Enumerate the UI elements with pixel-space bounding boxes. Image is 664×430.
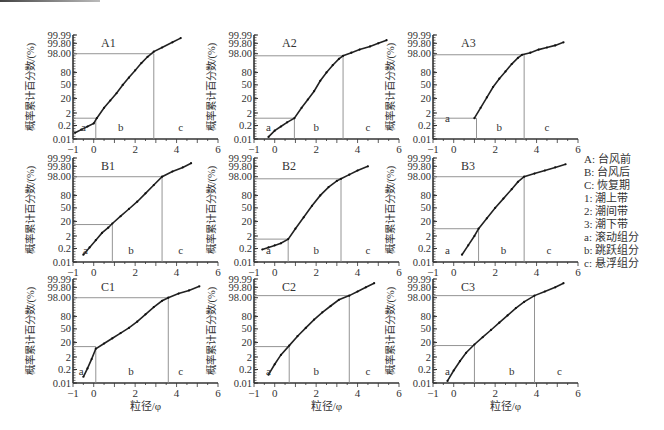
chart-panel-c1: 0.010.2220508098.0099.8099.99−10246概率累计百… <box>24 274 221 413</box>
data-point <box>340 178 342 180</box>
chart-panel-a1: 0.010.2220508098.0099.8099.99−10246概率累计百… <box>24 30 221 156</box>
x-tick-label: 6 <box>575 266 581 278</box>
y-tick-label: 98.00 <box>228 292 252 303</box>
y-axis-label: 概率累计百分数/(%) <box>384 165 397 254</box>
data-point <box>356 169 358 171</box>
y-axis-label: 概率累计百分数/(%) <box>24 165 37 254</box>
segment-label-c: c <box>557 365 562 377</box>
y-tick-label: 2 <box>247 352 252 363</box>
x-axis-label: 粒径/φ <box>311 399 342 412</box>
data-point <box>311 205 313 207</box>
x-tick-label: 2 <box>132 266 138 278</box>
y-tick-label: 80 <box>242 190 253 201</box>
x-axis-label: 粒径/φ <box>130 399 161 412</box>
panel-title: B2 <box>282 159 296 173</box>
x-tick-label: 2 <box>492 266 498 278</box>
y-tick-label: 2 <box>66 352 71 363</box>
data-point <box>153 51 155 53</box>
data-point <box>190 162 192 164</box>
segment-label-b: b <box>128 244 134 256</box>
y-tick-label: 99.99 <box>228 153 252 164</box>
chart-panel-c3: 0.010.2220508098.0099.8099.99−10246概率累计百… <box>384 274 581 413</box>
x-tick-label: 2 <box>313 143 319 155</box>
data-point <box>286 121 288 123</box>
chart-panel-b3: 0.010.2220508098.0099.8099.99−10246概率累计百… <box>384 153 581 279</box>
data-point <box>296 335 298 337</box>
y-tick-label: 2 <box>66 231 71 242</box>
data-point <box>517 181 519 183</box>
data-point <box>338 58 340 60</box>
y-tick-label: 50 <box>61 79 72 90</box>
x-tick-label: 6 <box>215 266 221 278</box>
data-point <box>88 246 90 248</box>
y-tick-label: 99.99 <box>407 274 431 285</box>
data-point <box>473 117 475 119</box>
data-point <box>486 96 488 98</box>
data-point <box>120 332 122 334</box>
data-point <box>533 173 535 175</box>
y-tick-label: 80 <box>421 311 432 322</box>
data-point <box>321 311 323 313</box>
y-axis-label: 概率累计百分数/(%) <box>384 286 397 375</box>
y-tick-label: 99.99 <box>407 153 431 164</box>
panel-title: C2 <box>282 280 296 294</box>
segment-label-c: c <box>547 244 552 256</box>
y-tick-label: 2 <box>247 108 252 119</box>
x-tick-label: 2 <box>492 143 498 155</box>
y-tick-label: 80 <box>242 67 253 78</box>
data-point <box>459 360 461 362</box>
data-point <box>336 180 338 182</box>
y-tick-label: 98.00 <box>407 292 431 303</box>
segment-label-a: a <box>83 244 88 256</box>
data-point <box>365 286 367 288</box>
chart-panel-a2: 0.010.2220508098.0099.8099.99−10246概率累计百… <box>205 30 402 156</box>
data-point <box>385 39 387 41</box>
data-point <box>198 285 200 287</box>
y-tick-label: 50 <box>421 202 432 213</box>
segment-label-c: c <box>178 365 183 377</box>
segment-label-b: b <box>313 244 319 256</box>
y-tick-label: 80 <box>61 67 72 78</box>
data-point <box>473 343 475 345</box>
y-tick-label: 98.00 <box>407 171 431 182</box>
data-point <box>521 54 523 56</box>
data-point <box>523 301 525 303</box>
data-point <box>338 299 340 301</box>
data-point <box>486 217 488 219</box>
data-point <box>562 282 564 284</box>
y-tick-label: 2 <box>426 352 431 363</box>
data-point <box>350 52 352 54</box>
data-point <box>359 48 361 50</box>
x-tick-label: 4 <box>534 387 540 399</box>
segment-label-a: a <box>79 365 84 377</box>
data-point <box>122 84 124 86</box>
data-point <box>96 117 98 119</box>
x-tick-label: 6 <box>396 387 402 399</box>
data-point <box>498 78 500 80</box>
x-tick-label: −1 <box>67 387 79 399</box>
y-tick-label: 20 <box>421 337 432 348</box>
data-point <box>261 248 263 250</box>
cumulative-curve <box>474 42 563 118</box>
data-point <box>504 70 506 72</box>
segment-label-b: b <box>509 365 515 377</box>
x-tick-label: −1 <box>248 387 260 399</box>
segment-label-a: a <box>445 112 450 124</box>
data-point <box>554 44 556 46</box>
x-tick-label: 6 <box>396 143 402 155</box>
data-point <box>107 227 109 229</box>
x-tick-label: 4 <box>174 387 180 399</box>
data-point <box>367 165 369 167</box>
data-point <box>562 41 564 43</box>
y-tick-label: 0.2 <box>239 243 252 254</box>
panel-title: B3 <box>461 159 475 173</box>
legend-item-a-rolling: a: 滚动组分 <box>584 231 639 244</box>
data-point <box>319 194 321 196</box>
x-tick-label: 0 <box>91 266 97 278</box>
data-point <box>564 163 566 165</box>
y-tick-label: 20 <box>421 93 432 104</box>
segment-label-a: a <box>81 121 86 133</box>
y-tick-label: 98.00 <box>228 48 252 59</box>
panel-title: B1 <box>101 159 115 173</box>
x-tick-label: 4 <box>355 387 361 399</box>
